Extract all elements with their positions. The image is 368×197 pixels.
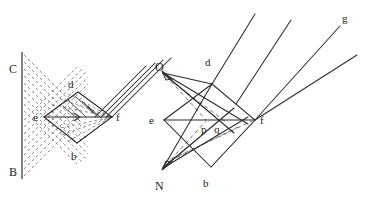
- arrowhead-N: [162, 161, 172, 170]
- label-f-left: f: [116, 111, 120, 123]
- label-e-left: e: [33, 111, 38, 123]
- left-diagram: C B d e f b: [9, 52, 171, 179]
- label-e-right: e: [149, 114, 154, 126]
- label-p-right: p: [201, 123, 207, 135]
- label-N-right: N: [155, 179, 164, 193]
- exit-ray-4: [255, 55, 357, 120]
- exit-rays-right: [212, 14, 357, 120]
- ray-diagram-svg: C B d e f b: [0, 0, 368, 197]
- exit-ray-3-g: [255, 26, 340, 120]
- label-O-right: O: [155, 60, 164, 74]
- label-f-right: f: [260, 114, 264, 126]
- label-b-right: b: [203, 177, 209, 189]
- label-q-right: q: [214, 123, 220, 135]
- label-d-left: d: [68, 78, 74, 90]
- right-diagram: O N d e p q f b g: [149, 12, 357, 193]
- label-d-right: d: [205, 56, 211, 68]
- label-B-left: B: [9, 165, 17, 179]
- label-b-left: b: [71, 150, 77, 162]
- label-g-right: g: [342, 12, 348, 24]
- exit-ray-2: [236, 20, 291, 104]
- label-C-left: C: [9, 62, 17, 76]
- figure-root: C B d e f b: [0, 0, 368, 197]
- exit-ray-1: [212, 14, 255, 84]
